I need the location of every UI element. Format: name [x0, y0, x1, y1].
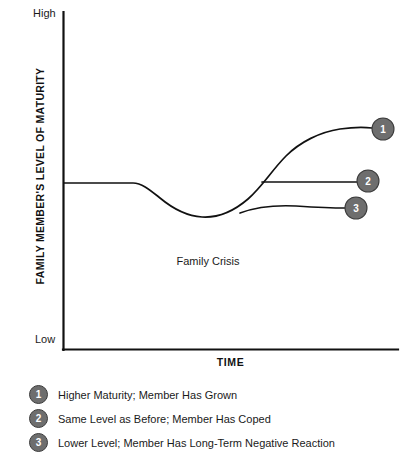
chart-root: 1 2 3 High Low Family Crisis TIME FAMILY… — [0, 0, 406, 471]
data-marker-3[interactable]: 3 — [345, 197, 367, 219]
legend-badge-2: 2 — [29, 409, 48, 428]
family-crisis-annotation: Family Crisis — [0, 255, 406, 267]
series-line-3 — [240, 206, 345, 213]
data-marker-1[interactable]: 1 — [372, 118, 394, 140]
legend-item-3: 3 Lower Level; Member Has Long-Term Nega… — [29, 432, 335, 453]
legend-label-1: Higher Maturity; Member Has Grown — [58, 389, 237, 401]
legend-label-3: Lower Level; Member Has Long-Term Negati… — [58, 437, 335, 449]
legend-badge-3: 3 — [29, 433, 48, 452]
data-marker-1-label: 1 — [380, 124, 386, 135]
chart-svg: 1 2 3 — [0, 0, 406, 370]
data-marker-2-label: 2 — [365, 176, 371, 187]
y-axis-high-label: High — [33, 7, 56, 19]
legend-badge-1: 1 — [29, 385, 48, 404]
legend-label-2: Same Level as Before; Member Has Coped — [58, 413, 271, 425]
plot-figure-area: 1 2 3 High Low Family Crisis TIME FAMILY… — [0, 0, 406, 370]
legend-item-1: 1 Higher Maturity; Member Has Grown — [29, 384, 237, 405]
x-axis-title: TIME — [63, 356, 398, 368]
data-marker-3-label: 3 — [353, 203, 359, 214]
series-line-1 — [64, 127, 372, 217]
legend: 1 Higher Maturity; Member Has Grown 2 Sa… — [0, 380, 406, 471]
data-marker-2[interactable]: 2 — [357, 170, 379, 192]
legend-item-2: 2 Same Level as Before; Member Has Coped — [29, 408, 271, 429]
y-axis-title: FAMILY MEMBER'S LEVEL OF MATURITY — [34, 26, 46, 326]
y-axis-low-label: Low — [35, 333, 55, 345]
